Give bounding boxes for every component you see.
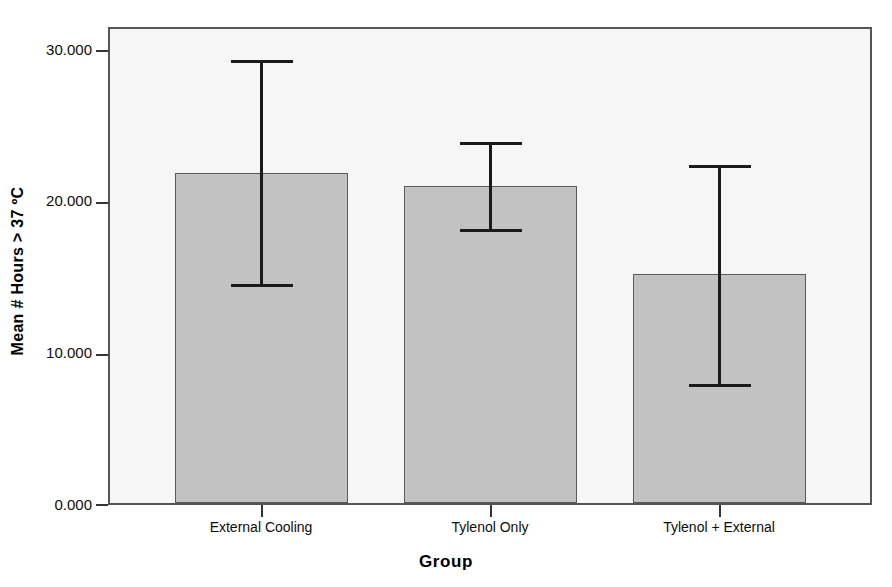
plot-area (108, 27, 872, 505)
y-tick-mark-0 (96, 504, 108, 506)
plot-inner (110, 29, 870, 503)
x-tick-mark-2 (490, 505, 492, 517)
error-stem (489, 142, 492, 232)
x-axis-title: Group (0, 552, 892, 572)
x-tick-label-tylenol-only: Tylenol Only (451, 519, 528, 535)
x-tick-mark-1 (261, 505, 263, 517)
y-axis-title: Mean # Hours > 37 ºC (9, 111, 27, 431)
error-stem (260, 60, 263, 287)
x-tick-mark-3 (719, 505, 721, 517)
x-tick-label-tylenol-plus-external: Tylenol + External (663, 519, 775, 535)
y-tick-label-10: 10.000 (0, 344, 92, 361)
y-tick-mark-30 (96, 50, 108, 52)
error-stem (718, 165, 721, 387)
y-tick-mark-10 (96, 354, 108, 356)
error-cap-lower (460, 229, 522, 232)
y-tick-label-20: 20.000 (0, 192, 92, 209)
x-tick-label-external-cooling: External Cooling (210, 519, 313, 535)
error-bar-external-cooling (175, 60, 348, 287)
error-cap-lower (689, 384, 751, 387)
error-bar-tylenol-only (404, 142, 577, 232)
error-cap-lower (231, 284, 293, 287)
error-bar-tylenol-plus-external (633, 165, 806, 387)
bar-tylenol-only[interactable] (404, 186, 577, 503)
y-tick-label-30: 30.000 (0, 41, 92, 58)
bar-chart: Mean # Hours > 37 ºC 30.000 20.000 10.00… (0, 0, 892, 587)
y-tick-label-0: 0.000 (0, 496, 92, 513)
y-tick-mark-20 (96, 202, 108, 204)
